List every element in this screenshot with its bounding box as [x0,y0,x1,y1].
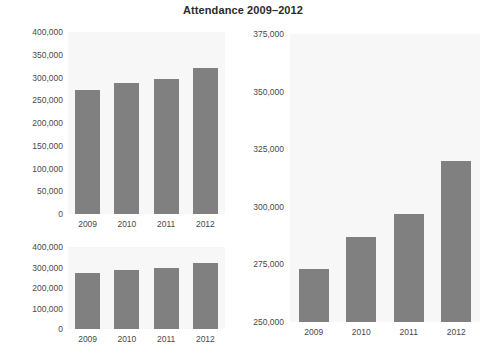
bar [193,68,218,214]
y-axis-tick-label: 50,000 [8,187,63,196]
y-axis-tick-label: 150,000 [8,142,63,151]
y-axis-tick-label: 325,000 [236,145,284,154]
x-axis-tick-label: 2009 [68,335,108,344]
bar [75,90,100,214]
x-axis-tick-label: 2011 [387,328,431,337]
x-axis-tick-label: 2010 [339,328,383,337]
y-axis-tick-label: 200,000 [8,119,63,128]
plot-area-bottom-left [68,247,225,329]
bar [299,269,329,322]
y-axis-tick-label: 350,000 [8,51,63,60]
y-axis-tick-label: 300,000 [8,74,63,83]
bar [154,79,179,214]
bar [154,268,179,329]
y-axis-tick-label: 400,000 [8,243,63,252]
y-axis-tick-label: 300,000 [236,203,284,212]
x-axis-tick-label: 2009 [68,220,108,229]
page-title: Attendance 2009–2012 [0,4,486,16]
x-axis-tick-label: 2011 [146,220,186,229]
chart-panel-right: 250,000275,000300,000325,000350,000375,0… [236,26,486,358]
bar [441,161,471,322]
y-axis-tick-label: 250,000 [236,318,284,327]
y-axis-tick-label: 0 [8,210,63,219]
bar [346,237,376,322]
x-axis-tick-label: 2012 [185,220,225,229]
y-axis-tick-label: 375,000 [236,30,284,39]
bar [75,273,100,329]
plot-area-right [290,34,480,322]
chart-panel-bottom-left: 0100,000200,000300,000400,00020092010201… [0,243,232,358]
y-axis-tick-label: 100,000 [8,305,63,314]
x-axis-tick-label: 2010 [107,335,147,344]
bar [114,270,139,329]
y-axis-tick-label: 200,000 [8,284,63,293]
chart-panel-top-left: 050,000100,000150,000200,000250,000300,0… [0,26,232,231]
x-axis-tick-label: 2009 [292,328,336,337]
y-axis-tick-label: 250,000 [8,96,63,105]
x-axis-tick-label: 2012 [185,335,225,344]
y-axis-tick-label: 350,000 [236,88,284,97]
y-axis-tick-label: 300,000 [8,264,63,273]
y-axis-tick-label: 275,000 [236,260,284,269]
x-axis-tick-label: 2010 [107,220,147,229]
figure-canvas: Attendance 2009–2012 050,000100,000150,0… [0,0,486,363]
y-axis-tick-label: 100,000 [8,165,63,174]
bar [193,263,218,329]
y-axis-tick-label: 400,000 [8,28,63,37]
plot-area-top-left [68,32,225,214]
bar [394,214,424,322]
x-axis-tick-label: 2012 [434,328,478,337]
bar [114,83,139,214]
x-axis-tick-label: 2011 [146,335,186,344]
y-axis-tick-label: 0 [8,325,63,334]
